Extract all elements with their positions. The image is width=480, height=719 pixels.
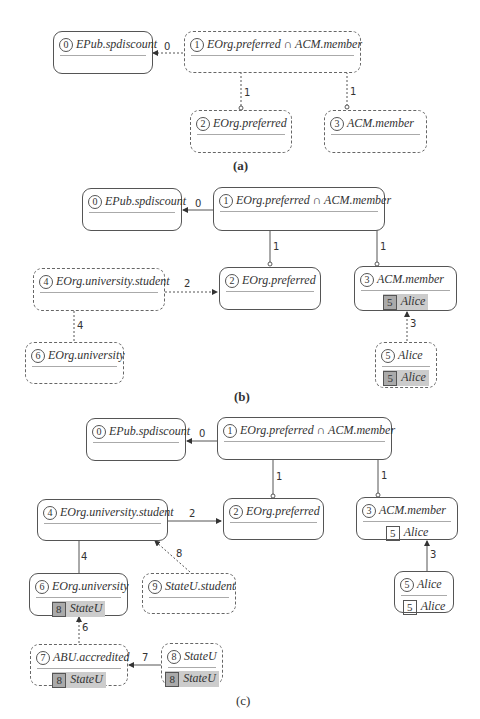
edge-label: 1 [244, 87, 250, 98]
edge-label: 2 [184, 278, 190, 289]
edge-label: 6 [82, 622, 88, 633]
node-c-1: 1EOrg.preferred ∩ ACM.member [217, 417, 392, 460]
node-c-9: 9StateU.student [142, 573, 236, 614]
edge-label: 0 [164, 41, 170, 52]
edge-label: 3 [430, 549, 436, 560]
edge-label: 8 [176, 548, 182, 559]
edge-label: 4 [81, 551, 87, 562]
node-a-1: 1EOrg.preferred ∩ ACM.member [184, 31, 361, 73]
node-b-4: 4EOrg.university.student [33, 268, 165, 311]
node-b-6: 6EOrg.university [25, 342, 124, 384]
node-b-0: 0EPub.spdiscount [82, 188, 182, 231]
node-a-2: 2EOrg.preferred [190, 110, 292, 153]
node-b-1: 1EOrg.preferred ∩ ACM.member [213, 187, 385, 231]
edge-label: 7 [142, 652, 148, 663]
edge-label: 0 [199, 428, 205, 439]
caption-b: (b) [234, 389, 250, 405]
node-b-2: 2EOrg.preferred [219, 267, 321, 310]
node-c-8: 8StateU 8StateU [161, 643, 223, 685]
caption-a: (a) [233, 158, 248, 174]
node-c-4: 4EOrg.university.student [37, 499, 168, 541]
edge-label: 3 [410, 318, 416, 329]
caption-c: (c) [236, 693, 250, 709]
node-c-2: 2EOrg.preferred [223, 498, 324, 540]
edge-label: 1 [380, 241, 386, 252]
edge-label: 0 [195, 198, 201, 209]
node-c-3: 3ACM.member 5Alice [356, 497, 458, 540]
node-b-5: 5Alice 5Alice [375, 342, 437, 388]
node-c-7: 7ABU.accredited 8StateU [30, 644, 128, 686]
edge-label: 1 [273, 241, 279, 252]
edge-label: 4 [77, 320, 83, 331]
edge-label: 1 [381, 470, 387, 481]
node-c-0: 0EPub.spdiscount [86, 418, 186, 461]
edge-label: 1 [350, 86, 356, 97]
node-b-3: 3ACM.member 5Alice [354, 266, 457, 311]
edge-label: 1 [276, 471, 282, 482]
edge-label: 2 [189, 508, 195, 519]
node-a-3: 3ACM.member [324, 110, 427, 153]
node-c-6: 6EOrg.university 8StateU [29, 573, 128, 616]
node-a-0: 0EPub.spdiscount [53, 31, 153, 74]
node-c-5: 5Alice 5Alice [394, 571, 454, 613]
